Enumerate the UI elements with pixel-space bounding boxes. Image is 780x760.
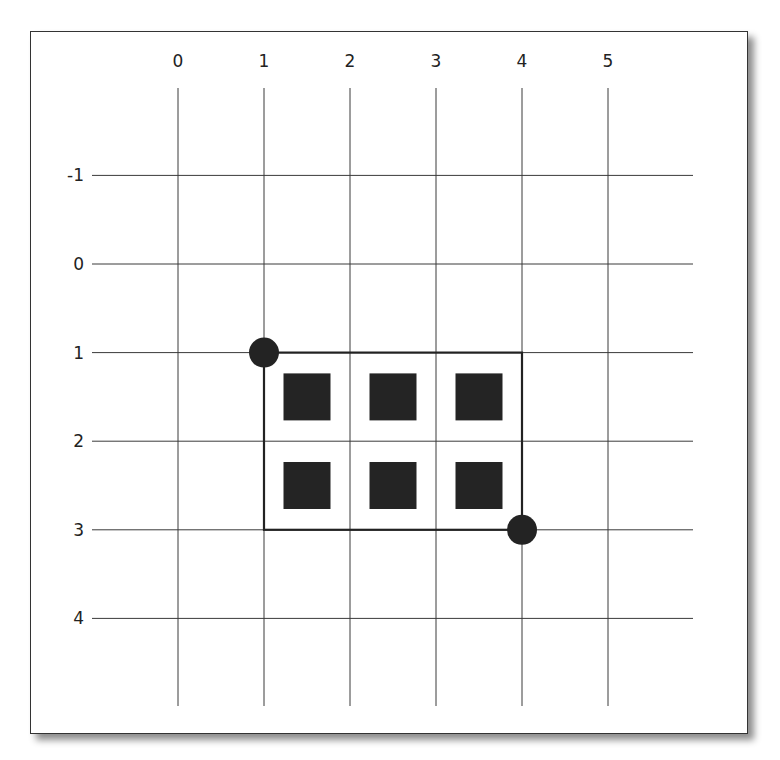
filled-cell [370, 462, 417, 509]
filled-cell [284, 462, 331, 509]
column-label: 3 [431, 51, 442, 71]
column-label: 4 [517, 51, 528, 71]
end-handle [507, 515, 537, 545]
row-label: 2 [73, 431, 84, 451]
filled-cell [284, 373, 331, 420]
column-label: 1 [259, 51, 270, 71]
row-label: 3 [73, 520, 84, 540]
filled-cell [370, 373, 417, 420]
row-label: 0 [73, 254, 84, 274]
row-labels: -101234 [67, 165, 84, 628]
row-label: 4 [73, 608, 84, 628]
filled-cell [456, 462, 503, 509]
filled-cell [456, 373, 503, 420]
column-label: 2 [345, 51, 356, 71]
start-handle [249, 338, 279, 368]
column-label: 5 [603, 51, 614, 71]
row-label: 1 [73, 343, 84, 363]
grid-diagram: 012345 -101234 [0, 0, 780, 760]
row-label: -1 [67, 165, 84, 185]
column-label: 0 [173, 51, 184, 71]
column-labels: 012345 [173, 51, 614, 71]
